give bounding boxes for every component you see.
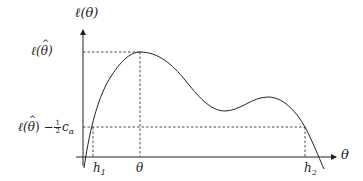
h1-subscript: 1 [101, 168, 106, 177]
diagram-graphics [0, 0, 363, 181]
one-half-fraction: 12 [54, 120, 60, 135]
y-axis-label: ℓ(θ) [75, 6, 98, 19]
h2-letter: h [304, 161, 312, 175]
likelihood-curve [84, 52, 324, 169]
fraction-denominator: 2 [54, 128, 60, 135]
threshold-c-subscript: α [69, 127, 74, 136]
threshold-c: c [62, 120, 69, 134]
max-label-prefix: ℓ( [31, 44, 41, 58]
x-axis-label: θ [341, 148, 349, 161]
threshold-label-prefix: ℓ( [18, 120, 28, 134]
theta-hat-tick-label: θ [136, 162, 143, 174]
threshold-label: ℓ(θ) −12cα [18, 120, 74, 136]
threshold-label-mid: ) − [35, 120, 54, 134]
likelihood-diagram: ℓ(θ) ℓ(θ) ℓ(θ) −12cα h1 θ h2 θ [0, 0, 363, 181]
max-label-theta-hat: θ [41, 45, 48, 57]
max-likelihood-label: ℓ(θ) [31, 45, 53, 57]
h2-label: h2 [304, 162, 317, 177]
threshold-label-theta-hat: θ [28, 121, 35, 133]
h1-label: h1 [93, 162, 106, 177]
h2-subscript: 2 [312, 168, 317, 177]
h1-letter: h [93, 161, 101, 175]
